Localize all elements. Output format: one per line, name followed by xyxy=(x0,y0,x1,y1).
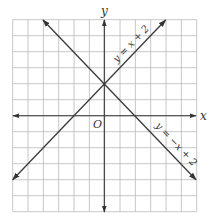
label-y-equals-x-plus-2: y = x + 2 xyxy=(110,23,151,65)
label-y-equals-neg-x-plus-2: y = −x + 2 xyxy=(153,119,200,168)
y-axis-label: y xyxy=(100,4,108,18)
x-axis-label: x xyxy=(200,109,207,123)
coordinate-plane: x y O y = x + 2 y = −x + 2 xyxy=(0,0,212,223)
origin-label: O xyxy=(93,118,102,131)
